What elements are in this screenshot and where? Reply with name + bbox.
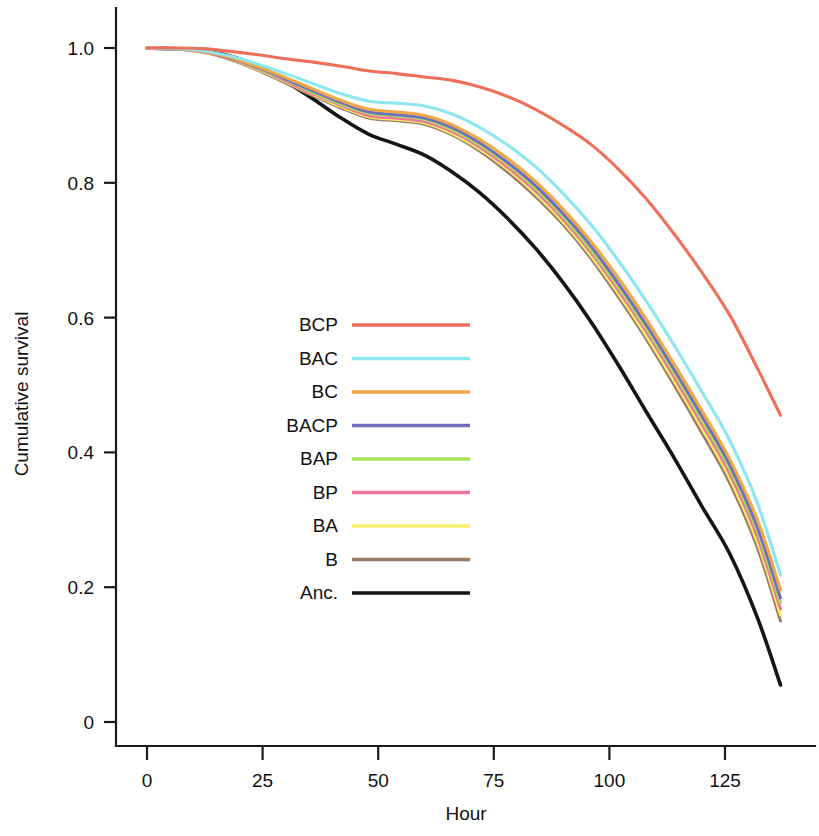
legend-label-bp: BP [313, 482, 338, 503]
legend-label-bac: BAC [299, 348, 338, 369]
y-axis-title: Cumulative survival [11, 312, 32, 477]
legend-label-bcp: BCP [299, 314, 338, 335]
legend-label-bacp: BACP [286, 415, 338, 436]
x-tick-label: 50 [368, 770, 389, 791]
curve-bac [147, 48, 780, 575]
y-tick-label: 0.4 [68, 442, 95, 463]
curve-bc [147, 48, 780, 590]
y-tick-label: 0.2 [68, 577, 94, 598]
legend-label-ba: BA [313, 515, 339, 536]
legend-label-bc: BC [312, 381, 338, 402]
legend-label-anc: Anc. [300, 582, 338, 603]
curve-bcp [147, 48, 780, 415]
curve-series-group [147, 48, 780, 685]
y-tick-label: 0.6 [68, 308, 94, 329]
x-axis-ticks: 0255075100125 [142, 746, 741, 791]
x-tick-label: 100 [594, 770, 626, 791]
x-tick-label: 125 [709, 770, 741, 791]
survival-chart-figure: 00.20.40.60.81.0 0255075100125 Cumulativ… [0, 0, 819, 836]
legend-label-b: B [325, 549, 338, 570]
y-tick-label: 1.0 [68, 38, 94, 59]
y-tick-label: 0.8 [68, 173, 94, 194]
x-tick-label: 25 [252, 770, 273, 791]
legend: BCPBACBCBACPBAPBPBABAnc. [286, 314, 470, 603]
y-tick-label: 0 [83, 712, 94, 733]
x-tick-label: 0 [142, 770, 153, 791]
y-axis-ticks: 00.20.40.60.81.0 [68, 38, 116, 733]
x-tick-label: 75 [483, 770, 504, 791]
x-axis-title: Hour [445, 803, 487, 824]
chart-canvas: 00.20.40.60.81.0 0255075100125 Cumulativ… [0, 0, 819, 836]
legend-label-bap: BAP [300, 448, 338, 469]
